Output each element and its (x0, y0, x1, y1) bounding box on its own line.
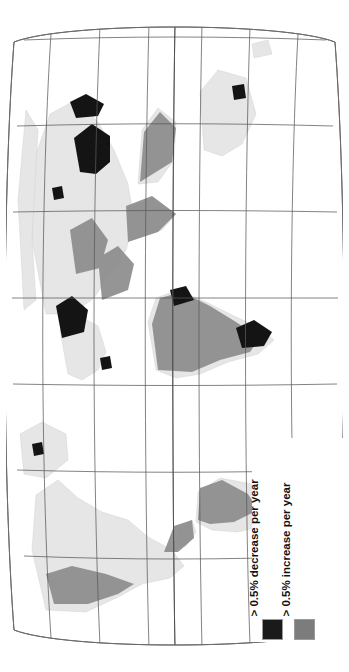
legend-label-decrease: > 0.5% decrease per year (249, 446, 261, 616)
figure-root: ment, 2006) (0, 0, 349, 672)
increase-swatch (294, 619, 315, 640)
decrease-swatch (262, 619, 283, 640)
map-legend: > 0.5% decrease per year > 0.5% increase… (252, 438, 344, 642)
legend-entry-increase: > 0.5% increase per year (292, 438, 322, 642)
legend-label-increase: > 0.5% increase per year (281, 446, 293, 616)
